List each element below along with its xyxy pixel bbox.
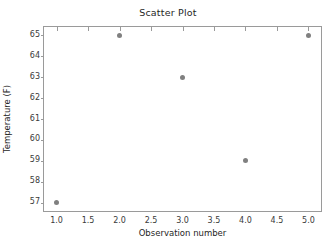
- x-tick-mark: [214, 27, 215, 31]
- y-tick-label: 65: [30, 30, 40, 39]
- y-tick-mark: [41, 182, 45, 183]
- y-tick-label: 60: [30, 134, 40, 143]
- y-axis-label: Temperature (F): [0, 26, 14, 212]
- y-tick-label: 58: [30, 176, 40, 185]
- x-tick-label: 4.5: [271, 216, 284, 225]
- y-tick-mark: [41, 35, 45, 36]
- x-tick-label: 1.5: [82, 216, 95, 225]
- x-tick-mark: [308, 27, 309, 31]
- x-tick-label: 3.0: [176, 216, 189, 225]
- y-tick-mark: [41, 77, 45, 78]
- x-tick-label: 4.0: [239, 216, 252, 225]
- x-tick-label: 2.5: [145, 216, 158, 225]
- y-tick-label: 57: [30, 197, 40, 206]
- x-tick-mark: [183, 27, 184, 31]
- x-tick-label: 3.5: [208, 216, 221, 225]
- y-tick-mark: [41, 140, 45, 141]
- y-tick-label: 62: [30, 93, 40, 102]
- y-tick-label: 64: [30, 51, 40, 60]
- x-tick-label: 1.0: [50, 216, 63, 225]
- y-axis-label-text: Temperature (F): [2, 85, 12, 153]
- x-axis-label: Observation number: [43, 228, 322, 238]
- x-tick-label: 2.0: [113, 216, 126, 225]
- plot-area: [44, 27, 321, 211]
- x-tick-mark: [120, 27, 121, 31]
- y-tick-mark: [41, 203, 45, 204]
- plot-axes-frame: 5758596061626364651.01.52.02.53.03.54.04…: [43, 26, 322, 212]
- x-tick-mark: [245, 27, 246, 31]
- y-tick-mark: [41, 56, 45, 57]
- x-tick-mark: [88, 27, 89, 31]
- x-tick-label: 5.0: [302, 216, 315, 225]
- data-point: [306, 33, 311, 38]
- y-tick-label: 63: [30, 72, 40, 81]
- y-tick-mark: [41, 161, 45, 162]
- x-tick-mark: [57, 27, 58, 31]
- data-point: [180, 75, 185, 80]
- y-tick-label: 59: [30, 155, 40, 164]
- data-point: [54, 200, 59, 205]
- scatter-plot-figure: Scatter Plot Temperature (F) 57585960616…: [0, 0, 336, 250]
- data-point: [243, 158, 248, 163]
- y-tick-mark: [41, 119, 45, 120]
- x-tick-mark: [277, 27, 278, 31]
- y-tick-label: 61: [30, 114, 40, 123]
- data-point: [117, 33, 122, 38]
- x-tick-mark: [151, 27, 152, 31]
- y-tick-mark: [41, 98, 45, 99]
- chart-title: Scatter Plot: [0, 7, 336, 18]
